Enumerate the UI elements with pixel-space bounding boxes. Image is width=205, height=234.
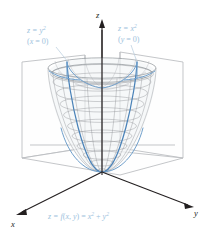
right-trace-condition: (y = 0): [118, 35, 140, 44]
right-trace-equation: z = x2: [117, 23, 137, 33]
figure-container: z y x z = y2 (x = 0) z = x2 (y = 0) z =: [0, 0, 205, 234]
left-trace-equation-base: z = y: [26, 26, 44, 35]
annotation-caption: z = f(x, y) = x2 + y2: [47, 211, 109, 221]
right-trace-equation-exponent: 2: [134, 23, 137, 29]
y-axis-label: y: [193, 208, 198, 218]
caption-equals: =: [79, 212, 88, 221]
annotation-left-trace: z = y2 (x = 0): [26, 25, 49, 46]
caption-term2-exponent: 2: [106, 211, 109, 217]
caption-plus: +: [94, 212, 103, 221]
left-trace-equation-exponent: 2: [43, 25, 46, 31]
right-trace-condition-rest: = 0): [124, 35, 140, 44]
z-axis-arrowhead: [99, 19, 105, 28]
y-axis: [102, 172, 194, 209]
annotation-right-trace: z = x2 (y = 0): [117, 23, 140, 44]
y-axis-arrowhead: [184, 203, 194, 209]
left-trace-condition: (x = 0): [27, 37, 49, 46]
left-trace-condition-rest: = 0): [33, 37, 49, 46]
left-trace-equation: z = y2: [26, 25, 46, 35]
paraboloid-diagram: z y x z = y2 (x = 0) z = x2 (y = 0) z =: [0, 0, 205, 234]
right-trace-equation-base: z = x: [117, 24, 135, 33]
x-axis-arrowhead: [16, 209, 27, 215]
x-axis: [16, 172, 102, 215]
x-axis-label: x: [10, 219, 15, 229]
z-axis-label: z: [95, 10, 100, 20]
caption-equation: z = f(x, y) = x2 + y2: [47, 211, 109, 221]
